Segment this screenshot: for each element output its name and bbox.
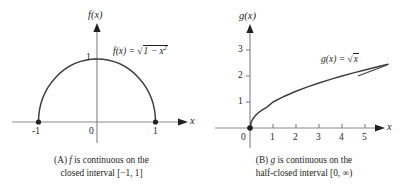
- caption-b-line2: half-closed interval [0, ∞): [203, 167, 405, 180]
- caption-a-line2: closed interval [−1, 1]: [0, 167, 203, 180]
- caption-a-line1: (A) f is continuous on the: [0, 154, 203, 167]
- radicand-b: x: [353, 53, 359, 64]
- curve-label-f-prefix: f(x) =: [113, 46, 137, 56]
- endpoint-dot-left-a: [36, 119, 41, 124]
- origin-label-a: 0: [89, 127, 94, 137]
- panel-b: g(x) x 1 2 3 0 1 2 3 4 5 g(x) = √x (B) g…: [203, 0, 405, 190]
- curve-label-f: f(x) = √1 − x2: [113, 45, 168, 56]
- x-tick-label-neg1-a: -1: [32, 127, 40, 137]
- panel-a: f(x) x 1 -1 1 0 f(x) = √1 − x2 (A) f is …: [0, 0, 203, 190]
- y-tick-label-1-a: 1: [86, 53, 91, 63]
- endpoint-dot-right-a: [153, 119, 158, 124]
- caption-b-line1: (B) g is continuous on the: [203, 154, 405, 167]
- curve-label-g: g(x) = √x: [321, 53, 359, 64]
- x-tick-label-5-b: 5: [362, 133, 367, 143]
- y-tick-label-1-b: 1: [238, 97, 243, 107]
- x-tick-label-1-b: 1: [270, 133, 275, 143]
- origin-label-b: 0: [241, 133, 246, 143]
- x-axis-b: [215, 124, 385, 131]
- x-axis-label-a: x: [190, 116, 195, 127]
- sqrt-glyph-a: √1 − x2: [137, 45, 168, 56]
- caption-a-tag: (A): [54, 155, 67, 165]
- caption-a-rest: is continuous on the: [72, 155, 149, 165]
- radicand-exponent-a: 2: [164, 43, 167, 50]
- x-tick-label-2-b: 2: [293, 133, 298, 143]
- radicand-a: 1 − x2: [143, 45, 168, 56]
- caption-b-tag: (B): [256, 155, 268, 165]
- radicand-text-b: x: [354, 54, 358, 64]
- y-axis-label-a: f(x): [88, 10, 103, 21]
- caption-b-rest: is continuous on the: [275, 155, 352, 165]
- y-tick-label-2-b: 2: [238, 71, 243, 81]
- caption-a: (A) f is continuous on the closed interv…: [0, 154, 203, 179]
- radicand-text-a: 1 − x: [144, 46, 164, 56]
- y-axis-label-b: g(x): [239, 11, 256, 22]
- x-tick-label-4-b: 4: [339, 133, 344, 143]
- figure-container: f(x) x 1 -1 1 0 f(x) = √1 − x2 (A) f is …: [0, 0, 405, 190]
- x-tick-label-1-a: 1: [153, 127, 158, 137]
- sqrt-glyph-b: √x: [347, 53, 358, 64]
- y-axis-a: [93, 23, 100, 143]
- curve-label-g-prefix: g(x) =: [321, 54, 347, 64]
- x-tick-label-3-b: 3: [316, 133, 321, 143]
- y-tick-label-3-b: 3: [238, 45, 243, 55]
- x-axis-label-b: x: [387, 122, 392, 133]
- caption-b: (B) g is continuous on the half-closed i…: [203, 154, 405, 179]
- endpoint-dot-origin-b: [247, 125, 253, 131]
- curve-g: [250, 64, 388, 128]
